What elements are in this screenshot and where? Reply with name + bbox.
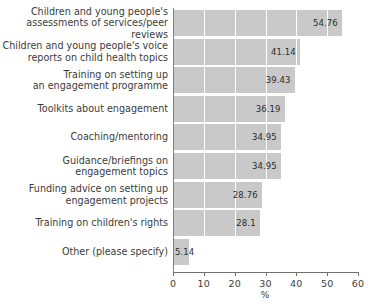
x-tick-mark [358,272,359,276]
category-label: Coaching/mentoring [0,131,168,143]
bar-value-label: 28.76 [233,190,258,200]
x-tick-mark [296,272,297,276]
x-tick-label: 10 [198,278,211,289]
category-label: Training on setting up an engagement pro… [0,69,168,92]
gridline [358,8,359,272]
gridline [296,8,297,272]
x-tick-label: 50 [321,278,334,289]
bar-value-label: 41.14 [271,47,296,57]
x-tick-label: 60 [352,278,365,289]
bar-value-label: 54.76 [313,18,338,28]
category-label: Toolkits about engagement [0,103,168,115]
bar-value-label: 34.95 [252,132,277,142]
bar-value-label: 34.95 [252,161,277,171]
category-label: Funding advice on setting up engagement … [0,183,168,206]
x-axis-title: % [261,290,270,300]
category-label: Children and young people's assessments … [0,6,168,41]
bar-value-label: 5.14 [175,247,194,257]
bar-value-label: 39.43 [266,75,291,85]
bar-value-label: 36.19 [256,104,281,114]
axis-zero-line [173,8,174,272]
horizontal-bar-chart: Children and young people's assessments … [0,0,372,304]
bar-value-label: 28.1 [236,218,255,228]
gridline [204,8,205,272]
gridline [327,8,328,272]
x-tick-mark [173,272,174,276]
x-tick-mark [235,272,236,276]
category-label: Training on children's rights [0,217,168,229]
x-tick-mark [266,272,267,276]
x-tick-mark [327,272,328,276]
x-tick-label: 20 [228,278,241,289]
category-label: Other (please specify) [0,246,168,258]
gridline [235,8,236,272]
x-tick-label: 40 [290,278,303,289]
x-tick-mark [204,272,205,276]
x-tick-label: 30 [259,278,272,289]
plot-area: 54.7641.1439.4336.1934.9534.9528.7628.15… [173,8,358,272]
category-label: Children and young people's voice report… [0,40,168,63]
category-label: Guidance/briefings on engagement topics [0,155,168,178]
x-tick-label: 0 [170,278,176,289]
